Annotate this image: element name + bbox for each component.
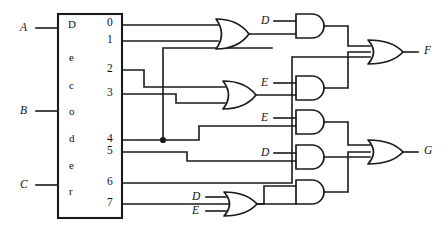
wire-out5 (122, 152, 296, 161)
decoder-output-1: 1 (107, 34, 113, 46)
decoder-letter-3: o (69, 106, 75, 117)
decoder-output-3: 3 (107, 87, 113, 99)
or-gate-output-f (368, 40, 403, 64)
decoder-output-0: 0 (107, 17, 113, 29)
decoder-output-6: 6 (107, 176, 113, 188)
decoder-output-7: 7 (107, 197, 113, 209)
decoder-letter-1: e (69, 52, 74, 63)
output-label-g: G (424, 145, 432, 157)
and-gate-1 (296, 14, 324, 38)
or-gate-3 (224, 192, 257, 216)
wire-and3-to-org (324, 122, 370, 145)
gate-input-label-e-or3: E (192, 205, 199, 217)
or-gate-2 (223, 81, 256, 109)
and-gate-3 (296, 110, 324, 134)
wire-and5-to-org (324, 152, 370, 192)
gate-input-label-d-and4: D (261, 147, 269, 159)
output-label-f: F (424, 45, 431, 57)
gate-input-label-d-and1: D (261, 15, 269, 27)
gate-input-label-e-and3: E (261, 112, 268, 124)
wire-out3 (122, 94, 225, 103)
wire-out7 (122, 186, 296, 204)
decoder-letter-5: e (69, 160, 74, 171)
decoder-output-5: 5 (107, 145, 113, 157)
and-gate-4 (296, 145, 324, 169)
or-gate-output-g (368, 140, 403, 164)
and-gate-5 (296, 180, 324, 204)
gate-input-label-d-or3: D (192, 191, 200, 203)
decoder-output-2: 2 (107, 63, 113, 75)
wire-out6 (122, 57, 370, 183)
decoder-output-4: 4 (107, 133, 113, 145)
logic-circuit-figure: A B C D e c o d e r 0 1 2 3 4 5 6 7 D E … (0, 0, 448, 234)
decoder-letter-6: r (69, 186, 73, 197)
wire-and1-to-orf (324, 26, 370, 46)
wire-out4 (122, 126, 296, 140)
gate-input-label-e-and2: E (261, 77, 268, 89)
decoder-letter-4: d (69, 133, 75, 144)
circuit-schematic (0, 0, 448, 234)
input-label-a: A (20, 22, 27, 34)
input-label-c: C (20, 179, 28, 191)
or-gate-1 (216, 19, 249, 49)
input-label-b: B (20, 105, 27, 117)
decoder-letter-2: c (69, 80, 74, 91)
wire-out2 (122, 70, 225, 87)
and-gate-2 (296, 76, 324, 100)
decoder-letter-0: D (68, 19, 76, 30)
